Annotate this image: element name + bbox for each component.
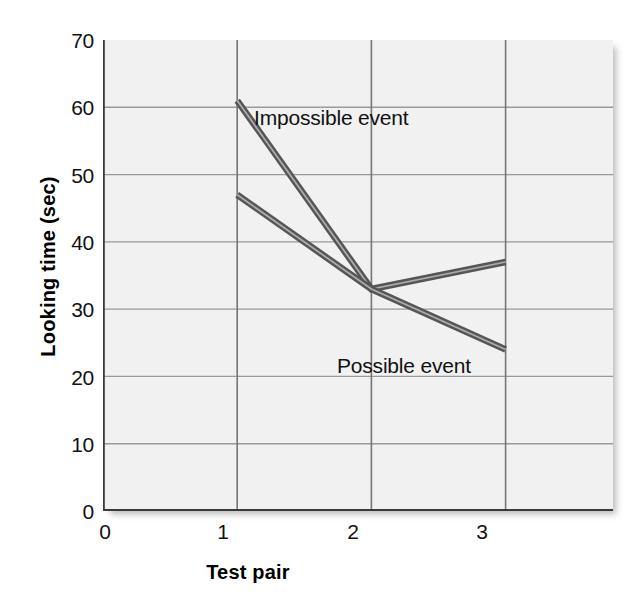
x-tick-label-2: 2 (333, 521, 373, 542)
x-tick-label-0: 0 (85, 521, 125, 542)
x-tick-label-1: 1 (203, 521, 243, 542)
x-tick-label-3: 3 (462, 521, 502, 542)
chart-figure: Impossible event Possible event 70 60 50… (0, 0, 642, 601)
x-axis-title: Test pair (103, 561, 393, 584)
x-axis-tick-labels: 0 1 2 3 (0, 0, 642, 601)
y-axis-title: Looking time (sec) (37, 147, 60, 387)
